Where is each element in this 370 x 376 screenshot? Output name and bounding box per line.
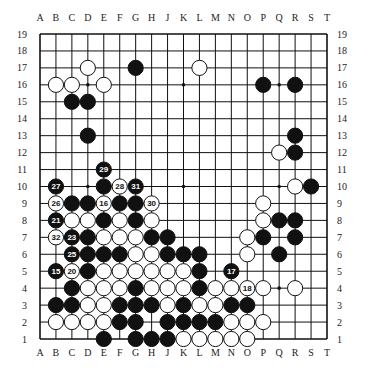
- black-stone-B3: [48, 298, 63, 313]
- black-stone-F6: [112, 247, 127, 262]
- black-stone-J1: [160, 331, 175, 346]
- white-stone-E9: 16: [96, 196, 111, 211]
- column-label: P: [260, 347, 266, 358]
- star-point: [182, 83, 186, 87]
- black-stone-P7: [256, 230, 271, 245]
- white-stone-G6: [128, 247, 143, 262]
- row-label: 1: [337, 334, 342, 345]
- black-stone-E6: [96, 247, 111, 262]
- column-label: F: [117, 347, 123, 358]
- black-stone-B8: 21: [48, 213, 63, 228]
- white-stone-O7: [240, 230, 255, 245]
- black-stone-S10: [303, 179, 318, 194]
- column-label: P: [260, 12, 266, 23]
- white-stone-F5: [112, 264, 127, 279]
- move-number: 17: [227, 267, 236, 276]
- white-stone-P8: [256, 213, 271, 228]
- column-labels-bottom: ABCDEFGHJKLMNOPQRST: [36, 347, 330, 358]
- white-stone-B2: [48, 314, 63, 329]
- white-stone-O4: 18: [240, 281, 255, 296]
- row-label: 5: [22, 266, 27, 277]
- column-label: L: [196, 12, 202, 23]
- move-number: 27: [51, 182, 60, 191]
- row-label: 15: [337, 96, 347, 107]
- row-label: 2: [337, 317, 342, 328]
- white-stone-F8: [112, 213, 127, 228]
- row-label: 11: [17, 164, 27, 175]
- row-label: 14: [17, 113, 27, 124]
- column-label: L: [196, 347, 202, 358]
- move-number: 30: [147, 199, 156, 208]
- column-label: H: [148, 12, 155, 23]
- white-stone-B7: 32: [48, 230, 63, 245]
- black-stone-Q8: [272, 213, 287, 228]
- row-label: 8: [22, 215, 27, 226]
- black-stone-R13: [288, 128, 303, 143]
- white-stone-H8: [144, 213, 159, 228]
- row-label: 12: [337, 147, 347, 158]
- column-label: C: [69, 12, 76, 23]
- white-stone-M3: [208, 298, 223, 313]
- black-stone-G2: [128, 314, 143, 329]
- black-stone-C3: [64, 298, 79, 313]
- column-label: M: [211, 347, 220, 358]
- white-stone-N2: [224, 314, 239, 329]
- row-label: 7: [337, 232, 342, 243]
- white-stone-B16: [48, 77, 63, 92]
- black-stone-G4: [128, 281, 143, 296]
- black-stone-G10: 31: [128, 179, 143, 194]
- row-label: 9: [337, 198, 342, 209]
- row-label: 18: [17, 45, 27, 56]
- black-stone-J7: [160, 230, 175, 245]
- row-labels-right: 19181716151413121110987654321: [337, 29, 347, 345]
- column-label: N: [228, 347, 235, 358]
- black-stone-D7: [80, 230, 95, 245]
- white-stone-E16: [96, 77, 111, 92]
- column-label: O: [244, 347, 251, 358]
- column-label: R: [292, 347, 299, 358]
- star-point: [182, 185, 186, 189]
- black-stone-D9: [80, 196, 95, 211]
- column-label: S: [308, 12, 314, 23]
- black-stone-B5: 15: [48, 264, 63, 279]
- white-stone-P2: [256, 314, 271, 329]
- black-stone-H7: [144, 230, 159, 245]
- column-label: T: [324, 347, 330, 358]
- white-stone-M1: [208, 331, 223, 346]
- black-stone-Q6: [272, 247, 287, 262]
- row-label: 5: [337, 266, 342, 277]
- white-stone-O2: [240, 314, 255, 329]
- white-stone-E5: [96, 264, 111, 279]
- white-stone-E3: [96, 298, 111, 313]
- black-stone-F2: [112, 314, 127, 329]
- column-label: F: [117, 12, 123, 23]
- row-label: 15: [17, 96, 27, 107]
- black-stone-E10: [96, 179, 111, 194]
- star-point: [277, 185, 281, 189]
- black-stone-M2: [208, 314, 223, 329]
- white-stone-C8: [64, 213, 79, 228]
- white-stone-D3: [80, 298, 95, 313]
- white-stone-O6: [240, 247, 255, 262]
- black-stone-C15: [64, 94, 79, 109]
- move-number: 16: [99, 199, 108, 208]
- row-label: 14: [337, 113, 347, 124]
- white-stone-E7: [96, 230, 111, 245]
- column-label: O: [244, 12, 251, 23]
- move-number: 21: [51, 216, 60, 225]
- white-stone-F7: [112, 230, 127, 245]
- black-stone-P16: [256, 77, 271, 92]
- white-stone-K1: [176, 331, 191, 346]
- black-stone-N5: 17: [224, 264, 239, 279]
- white-stone-P4: [256, 281, 271, 296]
- move-number: 28: [115, 182, 124, 191]
- move-number: 18: [243, 284, 252, 293]
- row-label: 9: [22, 198, 27, 209]
- black-stone-B10: 27: [48, 179, 63, 194]
- row-label: 8: [337, 215, 342, 226]
- white-stone-O1: [240, 331, 255, 346]
- row-label: 17: [17, 62, 27, 73]
- column-label: E: [101, 12, 107, 23]
- black-stone-C7: 23: [64, 230, 79, 245]
- row-label: 7: [22, 232, 27, 243]
